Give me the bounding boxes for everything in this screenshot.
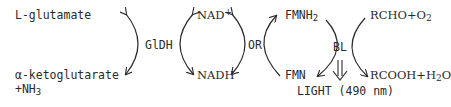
- gldh-arc-arrow: [126, 14, 138, 74]
- oxygen-subscript: 2: [426, 13, 432, 23]
- nadh-label: NADH: [197, 70, 235, 82]
- aldehyde-text: RCHO+O: [370, 8, 426, 22]
- ammonia-text: +NH: [15, 82, 36, 96]
- acid-water-label: RCOOH+H2O: [370, 70, 451, 82]
- nad-superscript: +: [225, 7, 233, 17]
- or-enzyme-label: OR: [248, 40, 262, 52]
- fmnh2-label: FMNH2: [285, 10, 318, 22]
- acid-text: RCOOH+H: [370, 68, 436, 82]
- fmnh-text: FMNH: [285, 8, 313, 22]
- fmnh-subscript: 2: [313, 13, 318, 23]
- ammonia-subscript: 3: [36, 87, 41, 97]
- nad-right-arc-arrow: [232, 14, 245, 74]
- bl-enzyme-label: BL: [333, 42, 347, 54]
- aldehyde-arc-arrow: [352, 18, 367, 76]
- nad-text: NAD: [197, 8, 225, 22]
- fmn-label: FMN: [285, 70, 306, 82]
- fmn-left-arc-arrow: [264, 16, 280, 76]
- aldehyde-oxygen-label: RCHO+O2: [370, 10, 432, 22]
- light-output-label: LIGHT (490 nm): [297, 86, 394, 98]
- ammonia-label: +NH3: [15, 84, 41, 96]
- nad-left-arc-arrow: [180, 14, 193, 74]
- alpha-ketoglutarate-label: α-ketoglutarate: [15, 70, 119, 82]
- light-double-arrow-icon: [333, 60, 347, 80]
- water-suffix: O: [442, 68, 451, 82]
- nad-plus-label: NAD+: [197, 10, 232, 22]
- l-glutamate-label: L-glutamate: [15, 10, 91, 22]
- gldh-enzyme-label: GlDH: [145, 40, 173, 52]
